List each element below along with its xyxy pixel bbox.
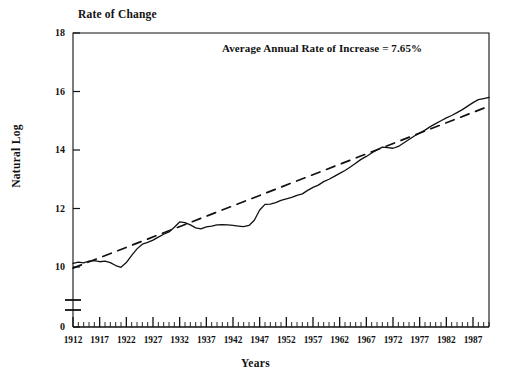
trend-line — [73, 106, 489, 268]
plot-frame — [73, 33, 489, 327]
chart-annotation: Average Annual Rate of Increase = 7.65% — [222, 42, 422, 54]
data-line — [73, 97, 489, 267]
x-axis-title: Years — [0, 357, 511, 369]
x-tick-label: 1987 — [453, 335, 493, 345]
y-tick-label: 14 — [39, 145, 65, 155]
y-tick-label: 16 — [39, 87, 65, 97]
plot-area — [0, 0, 511, 385]
axis-ticks — [73, 33, 489, 327]
y-tick-label: 12 — [39, 204, 65, 214]
y-tick-label: 0 — [39, 322, 65, 332]
chart-figure: Rate of Change Average Annual Rate of In… — [0, 0, 511, 385]
data-series-lines — [73, 97, 489, 268]
y-tick-label: 10 — [39, 262, 65, 272]
y-tick-label: 18 — [39, 28, 65, 38]
y-axis-title: Natural Log — [10, 116, 22, 196]
chart-title: Rate of Change — [78, 8, 157, 20]
